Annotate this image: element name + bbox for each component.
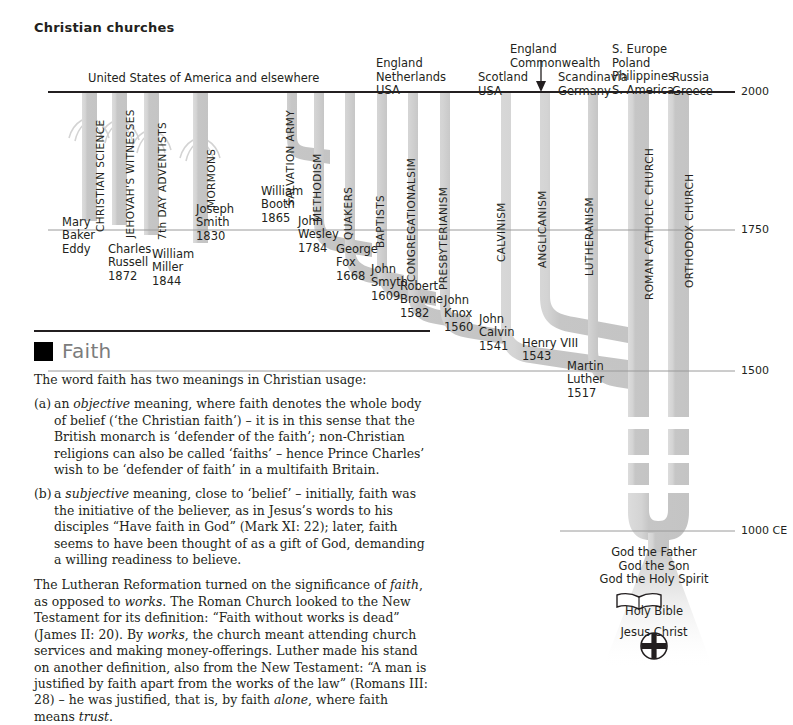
faith-item-b-marker: (b) bbox=[34, 486, 54, 568]
founder-mormons: Joseph Smith 1830 bbox=[196, 203, 234, 243]
tick-label-2000: 2000 bbox=[741, 85, 769, 98]
founder-7th-day-adventists: William Miller 1844 bbox=[152, 248, 194, 288]
denomination-label-methodism: METHODISM bbox=[311, 153, 323, 222]
denomination-label-baptists: BAPTISTS bbox=[374, 195, 386, 248]
region-header-usa-elsewhere: United States of America and elsewhere bbox=[88, 72, 319, 86]
denomination-label-anglicanism: ANGLICANISM bbox=[536, 190, 548, 268]
region-header-england-netherlands-usa: England Netherlands USA bbox=[376, 57, 446, 98]
founder-presbyterianism: John Knox 1560 bbox=[444, 294, 473, 334]
faith-item-a-text: an objective meaning, where faith denote… bbox=[54, 396, 430, 478]
faith-item-a-marker: (a) bbox=[34, 396, 54, 478]
denomination-label-roman-catholic-church: ROMAN CATHOLIC CHURCH bbox=[643, 148, 655, 300]
denomination-label-mormons: MORMONS bbox=[205, 149, 217, 208]
faith-heading: Faith bbox=[62, 339, 112, 363]
section-marker-square-icon bbox=[34, 342, 53, 361]
region-header-russia-greece: Russia Greece bbox=[672, 71, 713, 98]
faith-intro-paragraph: The word faith has two meanings in Chris… bbox=[34, 372, 430, 388]
band-orthodox-church bbox=[668, 93, 689, 485]
founder-salvation-army: William Booth 1865 bbox=[261, 185, 303, 225]
founder-lutheranism: Martin Luther 1517 bbox=[567, 360, 604, 400]
faith-item-a: (a) an objective meaning, where faith de… bbox=[34, 396, 430, 478]
trunk-junction bbox=[628, 493, 689, 540]
denomination-label-christian-science: CHRISTIAN SCIENCE bbox=[94, 119, 106, 232]
region-header-scotland-usa: Scotland USA bbox=[478, 71, 528, 98]
trinity-text: God the Father God the Son God the Holy … bbox=[554, 546, 754, 587]
region-header-s-europe-poland: S. Europe Poland Philippines S. America bbox=[612, 43, 674, 97]
founder-christian-science: Mary Baker Eddy bbox=[62, 216, 95, 256]
faith-item-b: (b) a subjective meaning, close to ‘beli… bbox=[34, 486, 430, 568]
holy-bible-caption: Holy Bible bbox=[594, 604, 714, 618]
denomination-label-jehovahs-witnesses: JEHOVAH'S WITNESSES bbox=[124, 109, 136, 238]
denomination-label-calvinism: CALVINISM bbox=[495, 202, 507, 262]
founder-congregationalism: Robert Browne 1582 bbox=[400, 280, 443, 320]
denomination-label-7th-day-adventists: 7th DAY ADVENTISTS bbox=[156, 122, 168, 240]
region-header-england-commonwealth: England Commonwealth bbox=[510, 43, 600, 70]
jesus-christ-caption: Jesus Christ bbox=[594, 625, 714, 639]
founder-calvinism: John Calvin 1541 bbox=[479, 313, 515, 353]
tick-label-1500: 1500 bbox=[741, 364, 769, 377]
denomination-label-orthodox-church: ORTHODOX CHURCH bbox=[683, 174, 695, 289]
founder-methodism: John Wesley 1784 bbox=[298, 215, 339, 255]
faith-article: Faith The word faith has two meanings in… bbox=[34, 330, 430, 725]
founder-jehovahs-witnesses: Charles Russell 1872 bbox=[108, 243, 151, 283]
faith-heading-row: Faith bbox=[34, 339, 430, 363]
denomination-label-lutheranism: LUTHERANISM bbox=[583, 197, 595, 276]
denomination-label-presbyterianism: PRESBYTERIANISM bbox=[437, 187, 449, 290]
faith-item-b-text: a subjective meaning, close to ‘belief’ … bbox=[54, 486, 430, 568]
faith-closing-paragraph: The Lutheran Reformation turned on the s… bbox=[34, 577, 430, 725]
denomination-label-quakers: QUAKERS bbox=[342, 187, 354, 240]
section-divider-rule bbox=[34, 330, 430, 332]
tick-label-1000-ce: 1000 CE bbox=[741, 524, 787, 537]
tick-label-1750: 1750 bbox=[741, 223, 769, 236]
